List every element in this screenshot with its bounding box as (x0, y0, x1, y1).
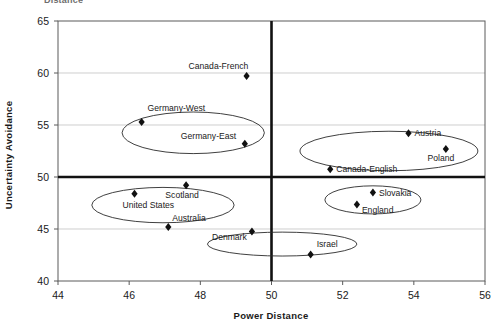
point-label: United States (123, 200, 175, 210)
point-label: Israel (317, 239, 338, 249)
x-tick-label: 50 (266, 289, 278, 301)
diamond-marker (443, 145, 449, 153)
point-label: Canada-English (336, 164, 397, 174)
x-tick-label: 52 (337, 289, 349, 301)
y-axis-ticks: 404550556065 (37, 15, 58, 287)
data-point-canada-french: Canada-French (189, 61, 250, 80)
x-tick-label: 44 (52, 289, 64, 301)
point-label: England (362, 205, 394, 215)
data-point-slovakia: Slovakia (370, 188, 412, 198)
diamond-marker (308, 250, 314, 258)
y-tick-label: 55 (37, 119, 49, 131)
scatter-plot: Canada-FrenchGermany-WestGermany-EastAus… (0, 0, 504, 326)
data-point-germany-east: Germany-East (181, 131, 248, 148)
diamond-marker (165, 223, 171, 231)
point-label: Poland (427, 153, 454, 163)
point-label: Germany-West (148, 103, 206, 113)
diamond-marker (405, 129, 411, 137)
diamond-marker (370, 189, 376, 197)
data-point-england: England (354, 201, 394, 215)
x-axis-ticks: 44464850525456 (52, 281, 491, 301)
data-point-canada-english: Canada-English (327, 164, 397, 174)
y-tick-label: 40 (37, 275, 49, 287)
x-tick-label: 54 (408, 289, 420, 301)
data-point-scotland: Scotland (165, 181, 199, 200)
y-tick-label: 45 (37, 223, 49, 235)
data-point-denmark: Denmark (212, 228, 255, 242)
x-axis-title: Power Distance (234, 310, 309, 321)
x-tick-label: 46 (123, 289, 135, 301)
data-point-australia: Australia (165, 213, 206, 231)
reference-lines-group (58, 21, 485, 281)
point-label: Denmark (212, 232, 248, 242)
y-tick-label: 65 (37, 15, 49, 27)
data-point-poland: Poland (427, 145, 454, 163)
point-label: Australia (172, 213, 206, 223)
x-tick-label: 56 (479, 289, 491, 301)
y-axis-title: Uncertainty Avoidance (3, 101, 14, 210)
data-point-austria: Austria (405, 128, 441, 138)
data-point-israel: Israel (308, 239, 338, 258)
y-tick-label: 50 (37, 171, 49, 183)
diamond-marker (131, 190, 137, 198)
point-label: Germany-East (181, 131, 237, 141)
diamond-marker (354, 201, 360, 209)
y-tick-label: 60 (37, 67, 49, 79)
data-point-germany-west: Germany-West (139, 103, 206, 126)
x-tick-label: 48 (194, 289, 206, 301)
point-label: Slovakia (379, 188, 412, 198)
chart-container: Distance Canada-FrenchGermany-WestGerman… (0, 0, 504, 326)
point-label: Austria (414, 128, 441, 138)
point-label: Canada-French (189, 61, 249, 71)
